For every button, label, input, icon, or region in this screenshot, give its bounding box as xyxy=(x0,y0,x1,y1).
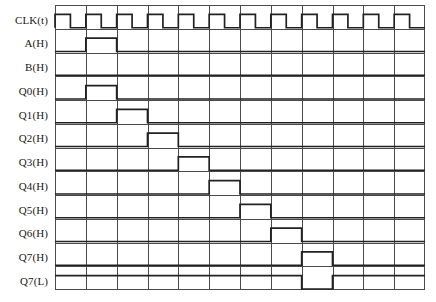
signal-label-q1: Q1(H) xyxy=(19,110,48,121)
timing-diagram-figure: CLK(t) A(H) B(H) Q0(H) Q1(H) Q2(H) Q3(H)… xyxy=(0,0,436,302)
signal-label-q7h: Q7(H) xyxy=(19,252,48,263)
signal-label-q2: Q2(H) xyxy=(19,133,48,144)
waveform-q4h xyxy=(55,181,425,194)
grid-layer xyxy=(55,5,425,290)
waveform-clkt xyxy=(55,14,425,27)
signal-label-q5: Q5(H) xyxy=(19,205,48,216)
signal-label-q0: Q0(H) xyxy=(19,86,48,97)
signal-label-clk: CLK(t) xyxy=(15,15,48,26)
signal-label-q3: Q3(H) xyxy=(19,157,48,168)
signal-label-q4: Q4(H) xyxy=(19,181,48,192)
waveform-q5h xyxy=(55,204,425,217)
signal-label-b: B(H) xyxy=(25,62,48,73)
signal-label-a: A(H) xyxy=(24,38,48,49)
waveform-canvas xyxy=(55,5,425,290)
signal-label-q7l: Q7(L) xyxy=(20,276,48,287)
signal-label-q6: Q6(H) xyxy=(19,228,48,239)
signal-label-column: CLK(t) A(H) B(H) Q0(H) Q1(H) Q2(H) Q3(H)… xyxy=(0,0,52,302)
waveform-plot-area xyxy=(55,5,425,290)
